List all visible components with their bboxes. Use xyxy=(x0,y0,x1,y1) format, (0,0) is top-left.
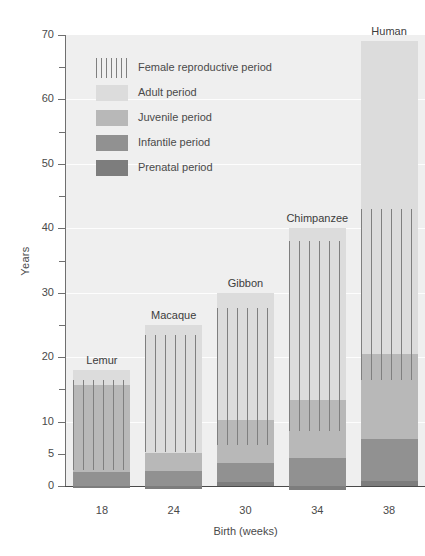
bar-segment-juvenile xyxy=(145,453,202,471)
y-tick-minor xyxy=(59,389,65,390)
bar-segment-prenatal xyxy=(73,486,130,488)
bar-segment-prenatal xyxy=(145,486,202,489)
legend-swatch-prenatal xyxy=(96,160,128,176)
female-reproductive-period-overlay xyxy=(361,209,418,380)
legend-swatch-infantile xyxy=(96,135,128,151)
bar xyxy=(73,370,130,488)
y-tick-major xyxy=(58,486,65,487)
bar-label-gibbon: Gibbon xyxy=(197,277,294,289)
x-tick-label: 34 xyxy=(281,504,353,516)
x-tick-label: 18 xyxy=(66,504,138,516)
y-tick-label: 40 xyxy=(42,222,54,233)
x-axis-label: Birth (weeks) xyxy=(66,525,425,537)
y-tick-minor xyxy=(59,67,65,68)
y-tick-label: 30 xyxy=(42,287,54,298)
bar-label-lemur: Lemur xyxy=(53,354,150,366)
legend-swatch-repro xyxy=(96,58,128,78)
y-tick-major xyxy=(58,35,65,36)
legend-label: Adult period xyxy=(138,85,197,100)
female-reproductive-period-overlay xyxy=(289,241,346,431)
female-reproductive-period-overlay xyxy=(73,380,130,470)
bar-segment-infantile xyxy=(73,472,130,486)
bar xyxy=(217,293,274,490)
y-tick-minor xyxy=(59,196,65,197)
y-tick-minor xyxy=(59,261,65,262)
y-tick-major xyxy=(58,454,65,455)
bar-label-chimpanzee: Chimpanzee xyxy=(269,212,366,224)
bar-segment-infantile xyxy=(145,471,202,486)
bar-label-macaque: Macaque xyxy=(125,309,222,321)
bar xyxy=(289,228,346,490)
y-tick-major xyxy=(58,293,65,294)
x-tick-label: 38 xyxy=(353,504,425,516)
y-tick-major xyxy=(58,228,65,229)
legend-label: Juvenile period xyxy=(138,110,212,125)
y-tick-label: 50 xyxy=(42,158,54,169)
y-tick-label: 10 xyxy=(42,416,54,427)
y-tick-major xyxy=(58,164,65,165)
x-tick-label: 24 xyxy=(138,504,210,516)
y-tick-minor xyxy=(59,132,65,133)
y-tick-label: 0 xyxy=(48,480,54,491)
y-axis-line xyxy=(65,35,66,486)
female-reproductive-period-overlay xyxy=(217,308,274,445)
y-tick-label: 5 xyxy=(48,448,54,459)
y-tick-label: 70 xyxy=(42,29,54,40)
bar xyxy=(145,325,202,489)
y-tick-minor xyxy=(59,325,65,326)
bar-segment-prenatal xyxy=(289,486,346,490)
legend-label: Prenatal period xyxy=(138,160,213,175)
legend-label: Female reproductive period xyxy=(138,60,272,75)
bar-segment-prenatal xyxy=(361,481,418,486)
y-tick-major xyxy=(58,99,65,100)
bar-segment-infantile xyxy=(217,463,274,482)
bar-segment-infantile xyxy=(289,458,346,486)
y-tick-label: 20 xyxy=(42,351,54,362)
bar xyxy=(361,41,418,490)
bar-segment-infantile xyxy=(361,439,418,482)
female-reproductive-period-overlay xyxy=(145,335,202,452)
y-axis-label: Years xyxy=(19,231,31,291)
legend-swatch-juvenile xyxy=(96,110,128,126)
y-tick-major xyxy=(58,422,65,423)
bar-label-human: Human xyxy=(341,25,425,37)
y-tick-label: 60 xyxy=(42,93,54,104)
bar-segment-prenatal xyxy=(217,482,274,486)
chart-figure: 0510203040506070 Years LemurMacaqueGibbo… xyxy=(0,0,425,556)
legend-swatch-adult xyxy=(96,85,128,101)
legend-label: Infantile period xyxy=(138,135,210,150)
x-tick-label: 30 xyxy=(210,504,282,516)
